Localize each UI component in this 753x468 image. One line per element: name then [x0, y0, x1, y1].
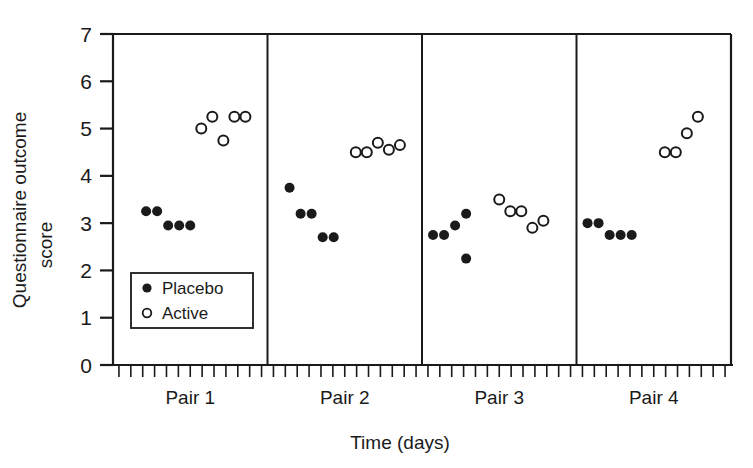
- y-axis-tick-label: 0: [80, 354, 92, 377]
- data-point-active: [682, 128, 692, 138]
- data-point-placebo: [141, 206, 151, 216]
- data-point-active: [229, 112, 239, 122]
- data-point-placebo: [461, 254, 471, 264]
- legend-placebo-label: Placebo: [162, 279, 223, 298]
- data-point-placebo: [285, 183, 295, 193]
- data-point-placebo: [450, 221, 460, 231]
- y-axis-tick-label: 4: [80, 164, 92, 187]
- data-point-placebo: [329, 232, 339, 242]
- data-point-active: [351, 147, 361, 157]
- data-point-placebo: [318, 232, 328, 242]
- panel-label-4: Pair 4: [629, 387, 679, 408]
- data-point-placebo: [627, 230, 637, 240]
- legend: Placebo Active: [131, 273, 253, 328]
- y-axis-tick-label: 2: [80, 259, 92, 282]
- data-point-active: [362, 147, 372, 157]
- data-point-placebo: [152, 206, 162, 216]
- data-point-placebo: [605, 230, 615, 240]
- data-point-active: [538, 216, 548, 226]
- legend-active-label: Active: [162, 304, 208, 323]
- panel-label-3: Pair 3: [474, 387, 524, 408]
- scatter-chart: Questionnaire outcome score 01234567 Pai…: [0, 0, 753, 468]
- y-axis-tick-label: 3: [80, 212, 92, 235]
- y-axis-tick-label: 7: [80, 23, 92, 46]
- data-point-placebo: [307, 209, 317, 219]
- data-point-active: [693, 112, 703, 122]
- chart-figure: Questionnaire outcome score 01234567 Pai…: [0, 0, 753, 468]
- data-point-active: [660, 147, 670, 157]
- data-point-active: [395, 140, 405, 150]
- data-point-placebo: [583, 218, 593, 228]
- data-point-active: [373, 138, 383, 148]
- legend-placebo-marker-icon: [142, 283, 151, 292]
- data-point-placebo: [296, 209, 306, 219]
- data-point-active: [196, 124, 206, 134]
- data-point-placebo: [461, 209, 471, 219]
- data-point-placebo: [174, 221, 184, 231]
- data-point-placebo: [185, 221, 195, 231]
- panel-label-1: Pair 1: [165, 387, 215, 408]
- x-axis-title: Time (days): [350, 432, 450, 453]
- legend-active-marker-icon: [143, 309, 152, 318]
- y-axis-tick-label: 1: [80, 306, 92, 329]
- data-point-placebo: [594, 218, 604, 228]
- data-point-active: [527, 223, 537, 233]
- data-point-active: [207, 112, 217, 122]
- y-axis-tick-label: 6: [80, 70, 92, 93]
- data-point-active: [494, 195, 504, 205]
- data-point-placebo: [428, 230, 438, 240]
- data-point-placebo: [616, 230, 626, 240]
- data-point-placebo: [163, 221, 173, 231]
- data-point-active: [240, 112, 250, 122]
- data-point-active: [671, 147, 681, 157]
- y-axis-title-line1: Questionnaire outcome: [9, 112, 30, 308]
- data-point-placebo: [439, 230, 449, 240]
- data-point-active: [505, 206, 515, 216]
- data-point-active: [384, 145, 394, 155]
- y-axis-title-line2: score: [35, 222, 56, 268]
- y-axis-tick-label: 5: [80, 117, 92, 140]
- data-point-active: [218, 135, 228, 145]
- panel-label-2: Pair 2: [320, 387, 370, 408]
- data-point-active: [516, 206, 526, 216]
